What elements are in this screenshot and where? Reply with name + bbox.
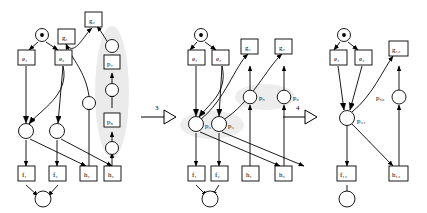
label-p56: p₅₆	[376, 94, 385, 102]
panel-2: e₁ e₂ g₁ g₂ f₁ f₂ h₁ h₂ p₃ p₄ p₅ p₆	[180, 29, 304, 208]
panel-3: e₁ e₂ g₁₂ f₁₂ h₁₂ p₃₄ p₅₆	[330, 29, 408, 208]
petri-net-diagram: e₁ e₂ g₁ g₂ f₁ f₂ h₁ h₂ p₇ p₈ 3	[0, 0, 427, 213]
label-f1-p2: f₁	[192, 171, 197, 179]
source-place-p0-panel2	[195, 29, 208, 42]
label-e1-p2: e₁	[192, 55, 198, 63]
label-f2: f₂	[53, 171, 58, 179]
panel-3-places	[339, 90, 406, 207]
place-p3	[189, 117, 204, 132]
place-p6	[277, 90, 291, 104]
label-e1-p3: e₁	[334, 55, 340, 63]
label-f2-p2: f₂	[215, 171, 220, 179]
label-p7: p₇	[107, 60, 114, 68]
place-mid	[50, 124, 65, 139]
label-p34: p₃₄	[357, 117, 366, 125]
panel-3-transitions	[330, 41, 408, 181]
label-p6: p₆	[293, 94, 300, 102]
transform-arrow-3-label: 3	[155, 104, 159, 112]
label-g2: g₂	[89, 17, 96, 25]
label-g12: g₁₂	[392, 46, 401, 54]
label-p8: p₈	[107, 118, 114, 126]
transform-arrow-3: 3	[141, 104, 176, 124]
source-place-p0	[36, 29, 49, 42]
label-h1-p2: h₁	[246, 171, 252, 179]
panel-1: e₁ e₂ g₁ g₂ f₁ f₂ h₁ h₂ p₇ p₈	[18, 12, 129, 207]
place-p34	[340, 111, 355, 126]
label-p4: p₄	[228, 122, 235, 130]
label-e2-p2: e₂	[216, 55, 222, 63]
sink-place-p2	[202, 191, 218, 207]
label-g1: g₁	[62, 34, 68, 42]
label-e2-p3: e₂	[359, 55, 365, 63]
place-chain-3	[106, 142, 119, 155]
place-left	[19, 124, 34, 139]
sink-place	[35, 191, 51, 207]
place-chain-1	[106, 40, 119, 53]
place-p4	[212, 117, 227, 132]
label-f1: f₁	[22, 171, 27, 179]
label-h2-p2: h₂	[279, 171, 286, 179]
place-p56	[392, 90, 406, 104]
transform-arrow-4: 4	[283, 104, 317, 124]
label-g1-p2: g₁	[245, 44, 251, 52]
source-place-p0-panel3	[338, 29, 351, 42]
label-p3: p₃	[205, 122, 212, 130]
label-p5: p₅	[259, 94, 266, 102]
label-f12: f₁₂	[340, 171, 348, 179]
label-e2: e₂	[59, 55, 65, 63]
sink-place-p3	[339, 191, 355, 207]
transform-arrow-4-label: 4	[296, 104, 300, 112]
label-h12: h₁₂	[392, 171, 401, 179]
figure-canvas: e₁ e₂ g₁ g₂ f₁ f₂ h₁ h₂ p₇ p₈ 3	[0, 0, 427, 213]
place-p5	[243, 90, 257, 104]
label-h2: h₂	[108, 171, 115, 179]
place-upper	[83, 97, 96, 110]
label-e1: e₁	[22, 55, 28, 63]
place-chain-2	[106, 84, 119, 97]
label-h1: h₁	[84, 171, 90, 179]
label-g2-p2: g₂	[279, 44, 286, 52]
